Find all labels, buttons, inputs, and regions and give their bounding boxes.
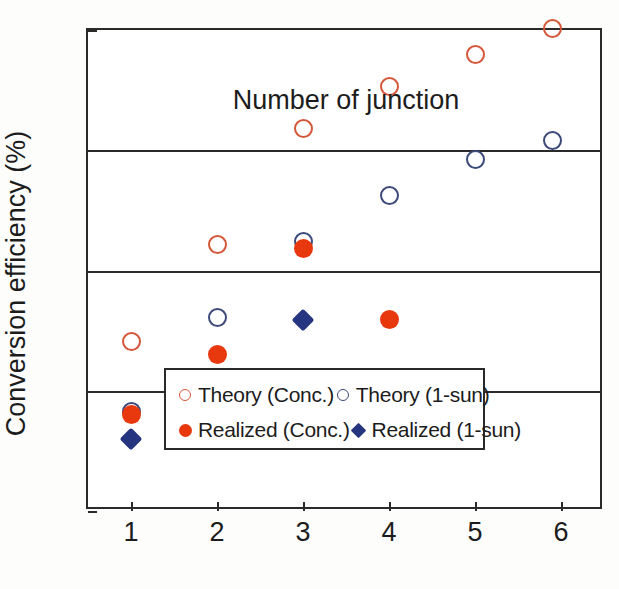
chart-legend: Theory (Conc.) Theory (1-sun) Realized (… — [164, 368, 485, 450]
legend-row: Theory (Conc.) Theory (1-sun) — [176, 378, 473, 412]
legend-entry-realized-1sun: Realized (1-sun) — [350, 418, 521, 442]
data-point — [543, 131, 562, 150]
x-tick-label-2: 2 — [192, 517, 242, 548]
legend-entry-theory-conc: Theory (Conc.) — [176, 383, 334, 407]
data-point — [466, 45, 485, 64]
data-point — [122, 405, 141, 424]
y-tick-mark — [88, 150, 97, 152]
legend-label: Realized (1-sun) — [372, 418, 521, 442]
x-tick-label-5: 5 — [450, 517, 500, 548]
x-tick-mark — [389, 502, 391, 511]
data-point — [122, 332, 141, 351]
x-tick-label-4: 4 — [364, 517, 414, 548]
data-point — [208, 235, 227, 254]
data-point — [120, 428, 143, 451]
gridline-40 — [88, 271, 600, 273]
x-tick-mark — [475, 502, 477, 511]
legend-label: Realized (Conc.) — [198, 418, 350, 442]
gridline-50 — [88, 150, 600, 152]
y-tick-mark — [88, 391, 97, 393]
open-circle-icon — [176, 386, 194, 404]
legend-label: Theory (Conc.) — [198, 383, 334, 407]
legend-entry-realized-conc: Realized (Conc.) — [176, 418, 350, 442]
data-point — [208, 345, 227, 364]
filled-circle-icon — [176, 421, 194, 439]
x-tick-mark — [217, 502, 219, 511]
legend-row: Realized (Conc.) Realized (1-sun) — [176, 413, 473, 447]
x-tick-mark — [561, 502, 563, 511]
data-point — [380, 186, 399, 205]
x-tick-label-1: 1 — [106, 517, 156, 548]
y-tick-mark — [88, 30, 97, 32]
x-tick-label-3: 3 — [278, 517, 328, 548]
data-point — [380, 310, 399, 329]
legend-label: Theory (1-sun) — [356, 383, 490, 407]
y-axis-title: Conversion efficiency (%) — [1, 54, 32, 514]
x-tick-mark — [303, 502, 305, 511]
filled-diamond-icon — [350, 421, 368, 439]
data-point — [543, 19, 562, 38]
y-tick-mark — [88, 271, 97, 273]
data-point — [292, 308, 315, 331]
data-point — [294, 239, 313, 258]
x-tick-label-6: 6 — [536, 517, 586, 548]
chart-figure: Conversion efficiency (%) 2030405060 123… — [0, 0, 619, 589]
data-point — [466, 150, 485, 169]
legend-entry-theory-1sun: Theory (1-sun) — [334, 383, 490, 407]
x-axis-title: Number of junction — [88, 85, 604, 116]
data-point — [208, 308, 227, 327]
x-tick-mark — [131, 502, 133, 511]
y-tick-mark — [88, 511, 97, 513]
data-point — [294, 119, 313, 138]
open-circle-icon — [334, 386, 352, 404]
